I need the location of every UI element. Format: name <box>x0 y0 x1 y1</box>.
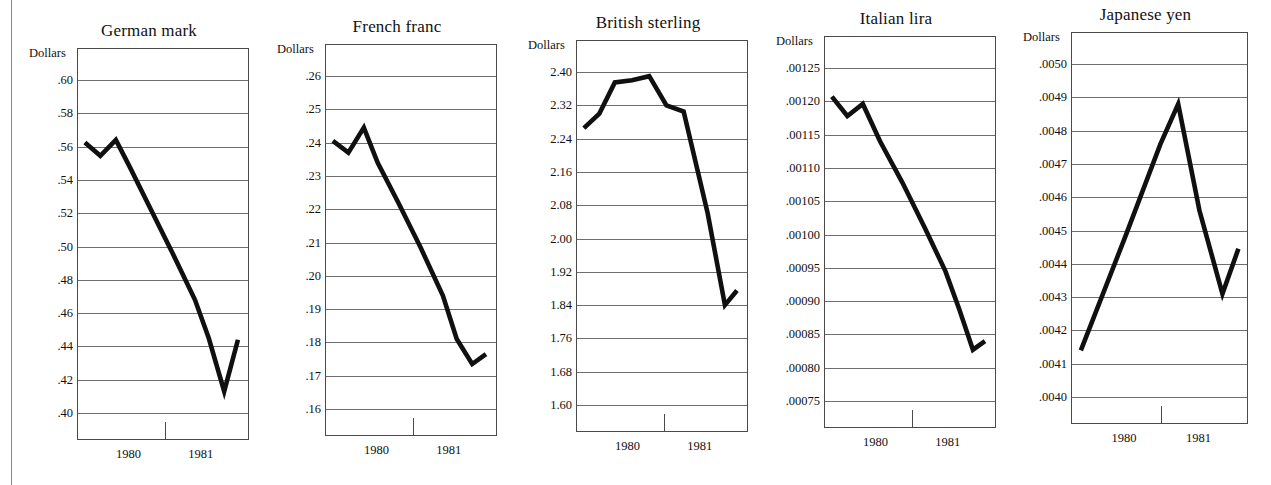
series-line-chart <box>1072 33 1249 425</box>
x-tick-label: 1981 <box>436 443 461 458</box>
x-tick-label: 1980 <box>364 443 389 458</box>
gridline <box>1072 264 1247 265</box>
y-axis-caption: Dollars <box>277 42 314 57</box>
y-tick-label: 1.92 <box>550 264 572 279</box>
y-tick-label: .0041 <box>1039 356 1067 371</box>
page-root: German markDollars.60.58.56.54.52.50.48.… <box>0 0 1271 485</box>
x-tick-label: 1981 <box>687 439 712 454</box>
chart-title: Japanese yen <box>1057 5 1234 25</box>
y-tick-label: .0047 <box>1039 156 1067 171</box>
y-tick-label: .00125 <box>786 61 820 76</box>
y-tick-label: 2.00 <box>550 231 572 246</box>
y-tick-label: .21 <box>305 235 321 250</box>
gridline <box>326 243 496 244</box>
gridline <box>326 376 496 377</box>
gridline <box>1072 197 1247 198</box>
x-tick-label: 1981 <box>1186 431 1211 446</box>
x-axis-tick-mark <box>664 414 665 431</box>
y-tick-label: .0050 <box>1039 57 1067 72</box>
gridline <box>577 305 747 306</box>
gridline <box>825 334 995 335</box>
y-tick-label: .0049 <box>1039 90 1067 105</box>
y-tick-label: .00115 <box>786 127 820 142</box>
y-tick-label: .00095 <box>786 260 820 275</box>
y-tick-label: .26 <box>305 69 321 84</box>
gridline <box>825 135 995 136</box>
gridline <box>577 139 747 140</box>
series-line-chart <box>577 41 749 433</box>
gridline <box>1072 231 1247 232</box>
chart-title: French franc <box>311 17 483 37</box>
y-tick-label: .25 <box>305 102 321 117</box>
gridline <box>577 172 747 173</box>
exchange-rate-series <box>584 76 737 305</box>
gridline <box>825 68 995 69</box>
chart-panel: Japanese yenDollars.0050.0049.0048.0047.… <box>0 0 250 485</box>
plot-area: .26.25.24.23.22.21.20.19.18.17.16 <box>325 44 497 436</box>
gridline <box>1072 131 1247 132</box>
gridline <box>1072 97 1247 98</box>
x-tick-label: 1980 <box>615 439 640 454</box>
gridline <box>1072 397 1247 398</box>
exchange-rate-series <box>333 128 486 364</box>
gridline <box>577 372 747 373</box>
gridline <box>577 405 747 406</box>
y-tick-label: .00090 <box>786 294 820 309</box>
y-tick-label: .00100 <box>786 227 820 242</box>
gridline <box>577 239 747 240</box>
gridline <box>326 176 496 177</box>
gridline <box>577 338 747 339</box>
series-line-chart <box>326 45 498 437</box>
y-tick-label: 2.32 <box>550 98 572 113</box>
gridline <box>326 109 496 110</box>
y-tick-label: 2.24 <box>550 131 572 146</box>
y-tick-label: .23 <box>305 168 321 183</box>
gridline <box>326 342 496 343</box>
series-line-chart <box>825 37 997 429</box>
x-tick-label: 1980 <box>1112 431 1137 446</box>
x-axis-tick-mark <box>912 410 913 427</box>
y-tick-label: .0042 <box>1039 323 1067 338</box>
gridline <box>825 268 995 269</box>
gridline <box>825 101 995 102</box>
y-tick-label: .00085 <box>786 327 820 342</box>
y-tick-label: .19 <box>305 302 321 317</box>
x-axis-tick-mark <box>413 418 414 435</box>
y-tick-label: 2.08 <box>550 198 572 213</box>
y-tick-label: .0040 <box>1039 390 1067 405</box>
gridline <box>326 309 496 310</box>
y-tick-label: 1.76 <box>550 331 572 346</box>
y-tick-label: .00075 <box>786 394 820 409</box>
y-tick-label: 1.68 <box>550 364 572 379</box>
plot-area: .0050.0049.0048.0047.0046.0045.0044.0043… <box>1071 32 1248 424</box>
y-tick-label: .0048 <box>1039 123 1067 138</box>
gridline <box>1072 330 1247 331</box>
y-tick-label: 2.16 <box>550 164 572 179</box>
y-tick-label: .00080 <box>786 360 820 375</box>
gridline <box>1072 297 1247 298</box>
gridline <box>577 205 747 206</box>
y-tick-label: .00105 <box>786 194 820 209</box>
gridline <box>577 72 747 73</box>
exchange-rate-series <box>1081 104 1239 350</box>
gridline <box>825 168 995 169</box>
chart-title: British sterling <box>562 13 734 33</box>
y-tick-label: .00120 <box>786 94 820 109</box>
gridline <box>825 368 995 369</box>
y-tick-label: .0044 <box>1039 256 1067 271</box>
x-tick-label: 1981 <box>935 435 960 450</box>
y-tick-label: .20 <box>305 268 321 283</box>
y-tick-label: .17 <box>305 368 321 383</box>
gridline <box>825 401 995 402</box>
gridline <box>577 272 747 273</box>
gridline <box>577 105 747 106</box>
y-tick-label: .0046 <box>1039 190 1067 205</box>
y-axis-caption: Dollars <box>1023 30 1060 45</box>
y-tick-label: .24 <box>305 135 321 150</box>
y-tick-label: .18 <box>305 335 321 350</box>
y-tick-label: .0043 <box>1039 290 1067 305</box>
gridline <box>326 209 496 210</box>
gridline <box>326 409 496 410</box>
y-tick-label: 1.60 <box>550 398 572 413</box>
plot-area: 2.402.322.242.162.082.001.921.841.761.68… <box>576 40 748 432</box>
